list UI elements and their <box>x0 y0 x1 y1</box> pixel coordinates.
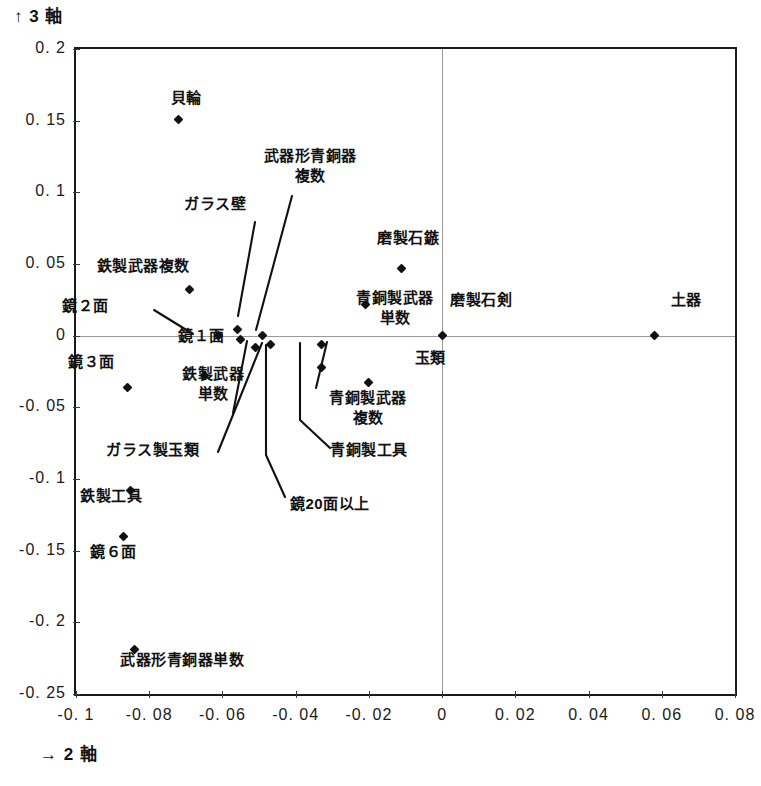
x-tick-label-0: -0. 1 <box>36 706 116 724</box>
point-label-line: ガラス壁 <box>140 194 290 214</box>
point-label-kagami-2men: 鏡２面 <box>62 296 162 316</box>
x-tick-label-8: 0. 06 <box>622 706 702 724</box>
point-label-line: 磨製石鏃 <box>338 228 478 248</box>
point-label-line: 玉類 <box>390 348 470 368</box>
y-tick-label-2: 0. 1 <box>0 182 66 200</box>
point-label-line: 単数 <box>148 384 278 404</box>
y-tick-8 <box>73 622 80 623</box>
point-label-tamarui: 玉類 <box>390 348 470 368</box>
scatter-chart: ↑ 3 軸 → 2 軸 -0. 1-0. 08-0. 06-0. 04-0. 0… <box>0 0 761 786</box>
point-label-doki: 土器 <box>646 290 726 310</box>
x-tick-8 <box>662 691 663 698</box>
y-tick-label-9: -0. 25 <box>0 684 66 702</box>
y-tick-label-7: -0. 15 <box>0 541 66 559</box>
x-tick-4 <box>369 691 370 698</box>
point-label-tetsusei-kougu: 鉄製工具 <box>80 486 200 506</box>
point-label-line: 鏡２面 <box>62 296 162 316</box>
point-label-kagami-20men-ijou: 鏡20面以上 <box>290 494 440 514</box>
point-label-kagami-1men: 鏡１面 <box>178 326 288 346</box>
y-tick-label-0: 0. 2 <box>0 39 66 57</box>
point-label-line: 土器 <box>646 290 726 310</box>
point-label-line: 鏡６面 <box>90 542 200 562</box>
x-axis-title: → 2 軸 <box>40 740 98 765</box>
point-label-busuki-seidouki-tansu: 武器形青銅器単数 <box>120 650 350 670</box>
x-tick-2 <box>222 691 223 698</box>
point-label-tetsusei-buki-fukusu: 鉄製武器複数 <box>48 256 238 276</box>
y-axis-title: ↑ 3 軸 <box>14 2 63 27</box>
point-label-garasu-sei-tamarui: ガラス製玉類 <box>106 440 276 460</box>
x-tick-label-2: -0. 06 <box>182 706 262 724</box>
point-label-line: 鉄製武器複数 <box>48 256 238 276</box>
x-tick-label-7: 0. 04 <box>549 706 629 724</box>
point-label-line: 青銅製工具 <box>330 440 470 460</box>
y-tick-label-8: -0. 2 <box>0 612 66 630</box>
x-tick-label-6: 0. 02 <box>475 706 555 724</box>
x-tick-label-1: -0. 08 <box>109 706 189 724</box>
y-tick-9 <box>73 694 80 695</box>
y-tick-7 <box>73 551 80 552</box>
x-tick-label-5: 0 <box>402 706 482 724</box>
y-tick-label-1: 0. 15 <box>0 111 66 129</box>
y-tick-4 <box>73 336 80 337</box>
point-label-garasu-heki: ガラス壁 <box>140 194 290 214</box>
zero-line-vertical <box>442 49 443 694</box>
point-label-line: 複数 <box>230 166 390 186</box>
point-label-seidousei-buki-tansu-l1: 青銅製武器単数 <box>320 288 470 328</box>
x-tick-7 <box>589 691 590 698</box>
point-label-kaiwa: 貝輪 <box>126 88 246 108</box>
point-label-tetsusei-buki-tansu-l1: 鉄製武器単数 <box>148 364 278 404</box>
point-label-line: 鉄製武器 <box>148 364 278 384</box>
point-label-line: 武器形青銅器単数 <box>120 650 350 670</box>
y-tick-label-5: -0. 05 <box>0 397 66 415</box>
y-tick-2 <box>73 192 80 193</box>
x-tick-3 <box>296 691 297 698</box>
y-tick-1 <box>73 121 80 122</box>
point-label-line: 貝輪 <box>126 88 246 108</box>
point-label-line: 武器形青銅器 <box>230 146 390 166</box>
x-tick-6 <box>515 691 516 698</box>
x-tick-9 <box>735 691 736 698</box>
zero-line-horizontal <box>76 336 735 337</box>
x-tick-label-4: -0. 02 <box>329 706 409 724</box>
point-label-busuki-seidouki-fukusu-l1: 武器形青銅器複数 <box>230 146 390 186</box>
y-tick-5 <box>73 407 80 408</box>
point-label-line: ガラス製玉類 <box>106 440 276 460</box>
x-tick-label-3: -0. 04 <box>256 706 336 724</box>
point-label-line: 複数 <box>298 408 438 428</box>
point-label-line: 鉄製工具 <box>80 486 200 506</box>
point-label-masei-sekizoku: 磨製石鏃 <box>338 228 478 248</box>
point-label-line: 単数 <box>320 308 470 328</box>
point-label-seidousei-kougu: 青銅製工具 <box>330 440 470 460</box>
point-label-line: 磨製石剣 <box>450 290 570 310</box>
x-tick-label-9: 0. 08 <box>695 706 761 724</box>
point-label-line: 青銅製武器 <box>320 288 470 308</box>
y-tick-label-6: -0. 1 <box>0 469 66 487</box>
x-tick-1 <box>149 691 150 698</box>
point-label-line: 青銅製武器 <box>298 388 438 408</box>
point-label-seidousei-buki-fukusu-l1: 青銅製武器複数 <box>298 388 438 428</box>
y-tick-label-4: 0 <box>0 326 66 344</box>
point-label-kagami-6men: 鏡６面 <box>90 542 200 562</box>
y-tick-6 <box>73 479 80 480</box>
y-tick-0 <box>73 49 80 50</box>
x-tick-5 <box>442 691 443 698</box>
point-label-masei-sekken: 磨製石剣 <box>450 290 570 310</box>
point-label-line: 鏡１面 <box>178 326 288 346</box>
point-label-line: 鏡20面以上 <box>290 494 440 514</box>
